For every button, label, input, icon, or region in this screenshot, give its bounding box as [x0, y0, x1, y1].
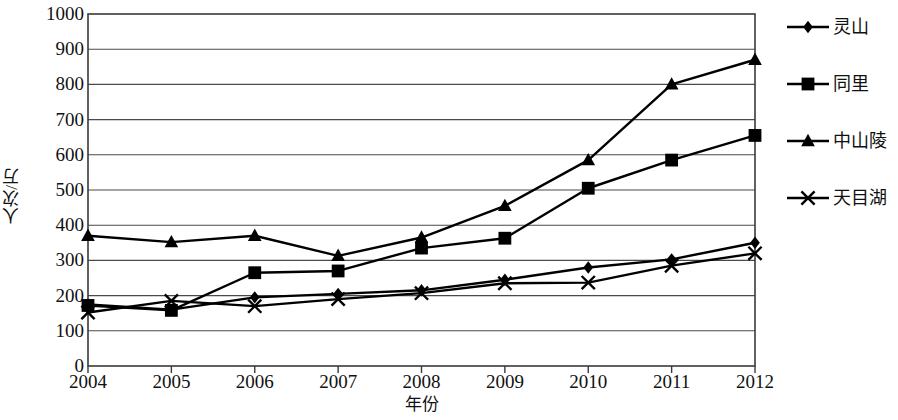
legend-label: 灵山 [830, 17, 869, 37]
x-tick-label: 2012 [720, 371, 790, 392]
x-tick-label: 2004 [53, 371, 123, 392]
diamond-marker-icon [786, 17, 830, 37]
legend-label: 同里 [830, 74, 869, 94]
x-axis-tick-labels: 200420052006200720082009201020112012 [0, 0, 898, 420]
triangle-marker-icon [786, 131, 830, 151]
legend-item[interactable]: 同里 [786, 73, 898, 95]
chart-legend: 灵山同里中山陵天目湖 [786, 16, 898, 244]
legend-item[interactable]: 灵山 [786, 16, 898, 38]
x-axis-title: 年份 [88, 395, 755, 414]
line-chart-figure: 人次/万 01002003004005006007008009001000 20… [0, 0, 898, 420]
square-marker-icon [786, 74, 830, 94]
legend-label: 天目湖 [830, 188, 887, 208]
cross-marker-icon [786, 188, 830, 208]
x-tick-label: 2009 [470, 371, 540, 392]
x-tick-label: 2008 [387, 371, 457, 392]
x-tick-label: 2006 [220, 371, 290, 392]
legend-label: 中山陵 [830, 131, 887, 151]
x-tick-label: 2005 [136, 371, 206, 392]
legend-item[interactable]: 中山陵 [786, 130, 898, 152]
x-tick-label: 2007 [303, 371, 373, 392]
x-tick-label: 2010 [553, 371, 623, 392]
legend-item[interactable]: 天目湖 [786, 187, 898, 209]
x-tick-label: 2011 [637, 371, 707, 392]
